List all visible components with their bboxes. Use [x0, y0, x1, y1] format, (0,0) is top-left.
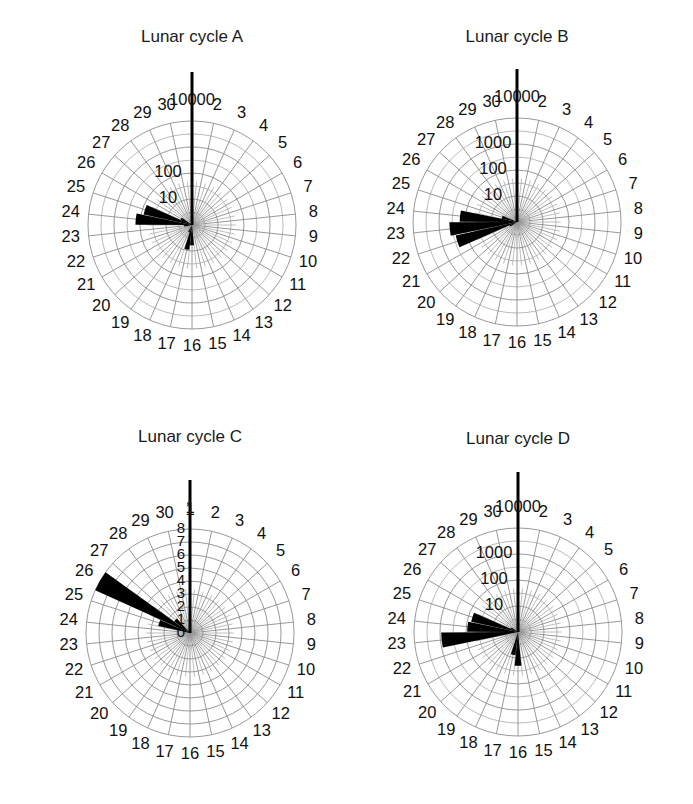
angle-label-day-24: 24 — [387, 199, 405, 217]
angle-label-day-7: 7 — [628, 174, 637, 192]
radial-tick-10: 10 — [485, 595, 503, 613]
angle-label-day-3: 3 — [562, 100, 571, 118]
angle-label-day-7: 7 — [629, 584, 638, 602]
angle-label-day-14: 14 — [557, 323, 575, 341]
angle-label-day-25: 25 — [393, 584, 411, 602]
angle-label-day-4: 4 — [585, 523, 594, 541]
radial-tick-1000: 1000 — [476, 543, 513, 561]
panel-title-b: Lunar cycle B — [466, 27, 569, 46]
angle-label-day-27: 27 — [92, 133, 110, 151]
angle-label-day-15: 15 — [208, 334, 226, 352]
angle-label-day-29: 29 — [131, 511, 149, 529]
angle-label-day-12: 12 — [274, 296, 292, 314]
radial-tick-10: 10 — [484, 185, 502, 203]
angle-label-day-4: 4 — [259, 116, 268, 134]
angle-label-day-26: 26 — [77, 153, 95, 171]
angle-label-day-23: 23 — [388, 634, 406, 652]
angle-label-day-30: 30 — [155, 503, 173, 521]
angle-label-day-29: 29 — [459, 510, 477, 528]
angle-label-day-28: 28 — [436, 113, 454, 131]
radial-tick-1000: 1000 — [475, 133, 512, 151]
polar-plot-a: Lunar cycle A234567891011121314151617181… — [0, 0, 347, 402]
angle-label-day-17: 17 — [157, 334, 175, 352]
polar-chart-panel-c: Lunar cycle C123456789101112131415161718… — [0, 402, 347, 804]
angle-label-day-12: 12 — [599, 293, 617, 311]
angle-label-day-17: 17 — [483, 741, 501, 759]
angle-label-day-6: 6 — [293, 153, 302, 171]
angle-label-day-22: 22 — [392, 249, 410, 267]
angle-label-day-11: 11 — [615, 682, 632, 700]
panel-title-c: Lunar cycle C — [138, 427, 242, 446]
angle-label-day-6: 6 — [618, 150, 627, 168]
angle-label-day-29: 29 — [458, 100, 476, 118]
angle-label-day-20: 20 — [418, 703, 436, 721]
angle-label-day-18: 18 — [458, 323, 476, 341]
angle-label-day-28: 28 — [109, 524, 127, 542]
angle-label-day-3: 3 — [235, 511, 244, 529]
angle-label-day-15: 15 — [533, 331, 551, 349]
polar-plot-b: Lunar cycle B234567891011121314151617181… — [346, 0, 693, 402]
angle-label-day-23: 23 — [387, 224, 405, 242]
angle-label-day-8: 8 — [309, 202, 318, 220]
angle-label-day-19: 19 — [109, 721, 127, 739]
angle-label-day-14: 14 — [230, 734, 248, 752]
angle-label-day-27: 27 — [90, 541, 108, 559]
angle-label-day-21: 21 — [77, 275, 95, 293]
angle-label-day-22: 22 — [393, 659, 411, 677]
angle-label-day-7: 7 — [301, 585, 310, 603]
angle-label-day-20: 20 — [417, 293, 435, 311]
angle-label-day-26: 26 — [75, 561, 93, 579]
angle-label-day-10: 10 — [299, 252, 317, 270]
angle-label-day-28: 28 — [437, 523, 455, 541]
angle-label-day-20: 20 — [90, 704, 108, 722]
data-wedge-day-26 — [95, 572, 190, 633]
angle-label-day-4: 4 — [584, 113, 593, 131]
angle-label-day-9: 9 — [635, 634, 644, 652]
radial-tick-100: 100 — [154, 162, 182, 180]
angle-label-day-13: 13 — [580, 310, 598, 328]
angle-label-day-12: 12 — [600, 703, 618, 721]
polar-plot-c: Lunar cycle C123456789101112131415161718… — [0, 402, 347, 804]
radial-tick-100: 100 — [480, 569, 508, 587]
panel-title-a: Lunar cycle A — [141, 27, 244, 46]
angle-label-day-10: 10 — [624, 249, 642, 267]
angle-label-day-20: 20 — [92, 296, 110, 314]
angle-label-day-25: 25 — [67, 177, 85, 195]
angle-label-day-19: 19 — [436, 310, 454, 328]
radial-tick-10000: 10000 — [169, 90, 215, 108]
angle-label-day-22: 22 — [65, 660, 83, 678]
angle-label-day-7: 7 — [303, 177, 312, 195]
angle-label-day-5: 5 — [603, 130, 612, 148]
angle-label-day-27: 27 — [417, 130, 435, 148]
angle-label-day-13: 13 — [253, 721, 271, 739]
angle-label-day-16: 16 — [508, 333, 526, 351]
angle-label-day-28: 28 — [111, 116, 129, 134]
angle-label-day-16: 16 — [183, 336, 201, 354]
angle-label-day-15: 15 — [206, 742, 224, 760]
angle-label-day-24: 24 — [62, 202, 80, 220]
angle-label-day-13: 13 — [255, 313, 273, 331]
angle-label-day-5: 5 — [276, 541, 285, 559]
angle-label-day-5: 5 — [278, 133, 287, 151]
angle-label-day-23: 23 — [60, 635, 78, 653]
angle-label-day-6: 6 — [619, 560, 628, 578]
polar-chart-panel-d: Lunar cycle D234567891011121314151617181… — [346, 402, 693, 804]
angle-label-day-10: 10 — [297, 660, 315, 678]
radial-tick-10000: 10000 — [494, 87, 540, 105]
angle-label-day-26: 26 — [402, 150, 420, 168]
angle-label-day-25: 25 — [65, 585, 83, 603]
data-wedges-c — [95, 572, 190, 633]
angle-label-day-24: 24 — [388, 609, 406, 627]
angle-label-day-18: 18 — [131, 734, 149, 752]
angle-label-day-11: 11 — [287, 683, 304, 701]
angle-label-day-8: 8 — [307, 610, 316, 628]
angle-label-day-18: 18 — [459, 733, 477, 751]
polar-chart-panel-a: Lunar cycle A234567891011121314151617181… — [0, 0, 347, 402]
polar-plot-d: Lunar cycle D234567891011121314151617181… — [346, 402, 693, 804]
figure-root: Lunar cycle A234567891011121314151617181… — [0, 0, 693, 804]
angle-label-day-15: 15 — [534, 741, 552, 759]
angle-label-day-12: 12 — [272, 704, 290, 722]
angle-label-day-21: 21 — [403, 682, 421, 700]
angle-label-day-11: 11 — [614, 272, 631, 290]
angle-label-day-27: 27 — [418, 540, 436, 558]
